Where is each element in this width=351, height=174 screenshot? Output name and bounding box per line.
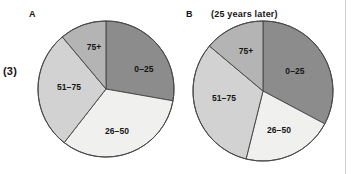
figure-panel: (3) A B (25 years later) 0–25 26–50 51–7…	[0, 0, 351, 174]
figure-row-number: (3)	[3, 65, 17, 77]
panel-a-label: A	[29, 9, 36, 19]
pie-b-label-0-25: 0–25	[285, 66, 304, 76]
pie-a-label-75-plus: 75+	[87, 42, 102, 52]
pie-chart-b: 0–25 26–50 51–75 75+	[192, 20, 334, 162]
pie-b-label-51-75: 51–75	[212, 93, 236, 103]
panel-divider-line	[345, 0, 346, 174]
pie-a-label-51-75: 51–75	[57, 82, 81, 92]
pie-b-label-75-plus: 75+	[239, 46, 254, 56]
pie-a-label-0-25: 0–25	[134, 64, 153, 74]
panel-b-label: B	[186, 9, 193, 19]
pie-a-slice-0-25	[106, 21, 174, 101]
pie-a-label-26-50: 26–50	[105, 126, 129, 136]
pie-b-label-26-50: 26–50	[267, 125, 291, 135]
panel-b-note: (25 years later)	[211, 9, 278, 19]
pie-chart-a: 0–25 26–50 51–75 75+	[37, 20, 175, 158]
